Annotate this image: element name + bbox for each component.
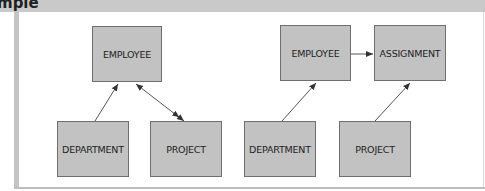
arrow-employee-project-left [136, 84, 184, 121]
arrow-project-assignment [375, 83, 410, 121]
entity-label: PROJECT [166, 144, 206, 155]
entity-project-left: PROJECT [150, 121, 222, 177]
entity-label: PROJECT [355, 144, 395, 155]
entity-label: EMPLOYEE [103, 49, 151, 60]
entity-label: DEPARTMENT [249, 144, 311, 155]
entity-label: EMPLOYEE [291, 48, 339, 59]
entity-employee-left: EMPLOYEE [92, 26, 162, 82]
entity-employee-right: EMPLOYEE [280, 25, 351, 81]
entity-department-right: DEPARTMENT [244, 121, 316, 177]
arrow-department-employee-right [282, 83, 316, 121]
entity-label: DEPARTMENT [62, 144, 124, 155]
entity-assignment: ASSIGNMENT [374, 25, 446, 81]
entity-department-left: DEPARTMENT [57, 121, 129, 177]
arrow-department-employee-left [95, 84, 118, 121]
entity-label: ASSIGNMENT [380, 48, 441, 59]
entity-project-right: PROJECT [339, 121, 411, 177]
